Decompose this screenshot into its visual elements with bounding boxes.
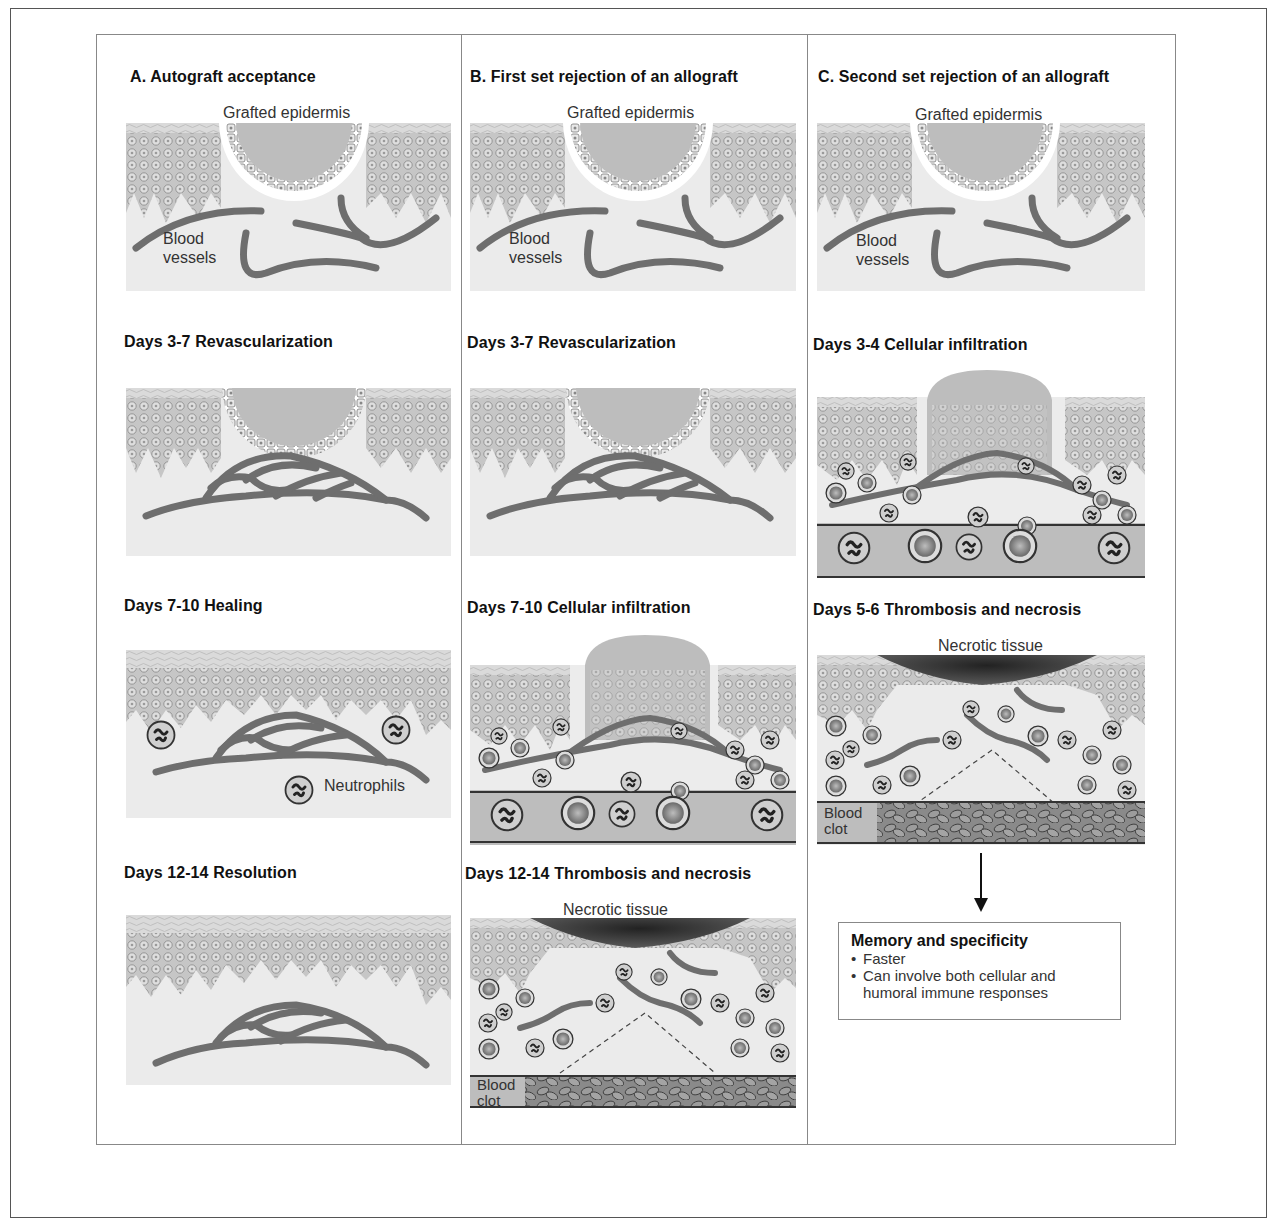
grafted-epidermis-label: Grafted epidermis [915, 106, 1042, 124]
blood-clot-label-line1: Blood [824, 805, 862, 821]
memory-item-text: humoral immune responses [863, 984, 1048, 1001]
necrotic-tissue-label: Necrotic tissue [563, 901, 668, 919]
blood-vessels-label-line2: vessels [509, 249, 562, 267]
thrombosis-necrosis-illustration [470, 918, 796, 1108]
bullet-icon: • [851, 950, 856, 967]
blood-clot-label-line1: Blood [477, 1077, 515, 1093]
blood-clot-label-line2: clot [824, 821, 847, 837]
grafted-epidermis-label: Grafted epidermis [223, 104, 350, 122]
arrow-head-icon [974, 898, 988, 912]
memory-specificity-box: Memory and specificity •Faster •Can invo… [838, 922, 1121, 1020]
revascularization-illustration [126, 388, 451, 556]
column-divider [461, 34, 462, 1145]
stage-heading: Days 3-4 Cellular infiltration [813, 336, 1028, 354]
blood-vessels-label-line2: vessels [163, 249, 216, 267]
necrotic-tissue-label: Necrotic tissue [938, 637, 1043, 655]
thrombosis-necrosis-illustration [817, 655, 1145, 845]
memory-box-item: •Can involve both cellular and [851, 967, 1108, 984]
blood-vessels-label-line1: Blood [163, 230, 204, 248]
column-b-heading: B. First set rejection of an allograft [470, 68, 738, 86]
stage-heading: Days 12-14 Resolution [124, 864, 297, 882]
stage-heading: Days 7-10 Cellular infiltration [467, 599, 691, 617]
cellular-infiltration-illustration [470, 630, 796, 845]
stage-heading: Days 3-7 Revascularization [467, 334, 676, 352]
memory-box-item-continuation: humoral immune responses [851, 984, 1108, 1001]
resolution-illustration [126, 915, 451, 1085]
memory-item-text: Can involve both cellular and [863, 967, 1056, 984]
cellular-infiltration-illustration [817, 365, 1145, 580]
blood-vessels-label-line1: Blood [509, 230, 550, 248]
stage-heading: Days 5-6 Thrombosis and necrosis [813, 601, 1081, 619]
column-c-heading: C. Second set rejection of an allograft [818, 68, 1109, 86]
stage-heading: Days 7-10 Healing [124, 597, 263, 615]
blood-clot-label-line2: clot [477, 1093, 500, 1109]
column-divider [807, 34, 808, 1145]
blood-vessels-label-line1: Blood [856, 232, 897, 250]
memory-box-title: Memory and specificity [851, 931, 1108, 950]
memory-box-item: •Faster [851, 950, 1108, 967]
neutrophils-label: Neutrophils [324, 777, 405, 795]
revascularization-illustration [470, 388, 796, 556]
stage-heading: Days 3-7 Revascularization [124, 333, 333, 351]
memory-item-text: Faster [863, 950, 906, 967]
bullet-icon: • [851, 967, 856, 984]
grafted-epidermis-label: Grafted epidermis [567, 104, 694, 122]
stage-heading: Days 12-14 Thrombosis and necrosis [465, 865, 751, 883]
blood-vessels-label-line2: vessels [856, 251, 909, 269]
column-a-heading: A. Autograft acceptance [130, 68, 316, 86]
